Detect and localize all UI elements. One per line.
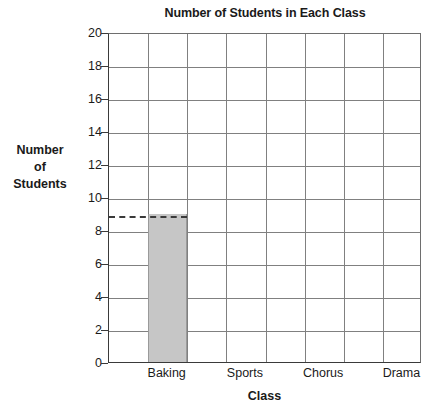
gridline-vertical [187,34,188,362]
y-tick-mark [101,198,108,199]
chart-container: Number of Students in Each Class Number … [0,0,430,415]
y-tick-label: 16 [74,93,102,105]
x-tick-label-chorus: Chorus [284,366,362,380]
y-tick-mark [101,33,108,34]
x-tick-label-drama: Drama [362,366,430,380]
gridline-horizontal [109,166,420,167]
y-axis-title-line-1: Number [2,142,78,159]
y-axis-title-line-2: of [2,159,78,176]
x-tick-label-baking: Baking [128,366,206,380]
y-tick-label: 2 [74,324,102,336]
y-tick-label: 12 [74,159,102,171]
y-tick-label: 10 [74,192,102,204]
y-tick-label: 14 [74,126,102,138]
y-tick-label: 0 [74,357,102,369]
x-tick-label-sports: Sports [206,366,284,380]
plot-area [108,33,421,363]
y-axis-ticks: 02468101214161820 [68,33,102,363]
y-tick-mark [101,66,108,67]
gridline-vertical [305,34,306,362]
gridline-vertical [383,34,384,362]
reference-line-dashed [109,216,187,218]
y-tick-label: 6 [74,258,102,270]
gridline-vertical [266,34,267,362]
gridline-horizontal [109,133,420,134]
y-tick-mark [101,264,108,265]
y-tick-label: 20 [74,27,102,39]
gridline-horizontal [109,100,420,101]
y-tick-mark [101,132,108,133]
gridline-vertical [226,34,227,362]
y-tick-mark [101,165,108,166]
y-tick-mark [101,99,108,100]
y-tick-label: 4 [74,291,102,303]
y-tick-label: 18 [74,60,102,72]
y-tick-label: 8 [74,225,102,237]
y-tick-mark [101,231,108,232]
gridline-horizontal [109,199,420,200]
gridline-horizontal [109,67,420,68]
y-axis-title: Number of Students [2,142,78,193]
y-axis-title-line-3: Students [2,176,78,193]
x-axis-title: Class [108,389,421,403]
y-tick-mark [101,330,108,331]
chart-title: Number of Students in Each Class [108,6,422,21]
y-tick-mark [101,297,108,298]
y-tick-mark [101,363,108,364]
gridline-vertical [344,34,345,362]
bar-baking [148,214,187,363]
